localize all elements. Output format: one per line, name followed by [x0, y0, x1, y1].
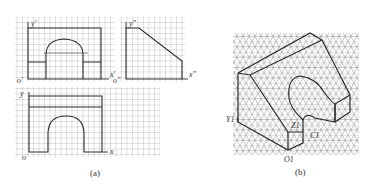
caption-a: (a): [90, 168, 100, 178]
technical-drawing: y' x' o' y" x" o" y x o (a): [0, 0, 367, 185]
front-view-grid: [15, 17, 115, 82]
side-y-label: y": [128, 19, 137, 28]
front-y-label: y': [30, 19, 37, 28]
isometric-grid: [233, 33, 359, 155]
top-x-label: x: [109, 147, 114, 156]
caption-b: (b): [295, 167, 306, 177]
front-origin-label: o': [17, 76, 23, 85]
top-view-grid: [15, 87, 160, 157]
panel-b: Y1 Z1 C1 O1 (b): [226, 33, 359, 177]
panel-a: y' x' o' y" x" o" y x o (a): [15, 17, 197, 178]
label-y1: Y1: [226, 115, 234, 124]
label-o1: O1: [284, 155, 294, 164]
side-origin-label: o": [113, 76, 121, 85]
top-y-label: y: [19, 89, 24, 98]
label-z1: Z1: [291, 121, 299, 130]
top-origin-label: o: [22, 153, 26, 162]
side-x-label: x": [188, 70, 197, 79]
label-c1: C1: [310, 131, 319, 140]
